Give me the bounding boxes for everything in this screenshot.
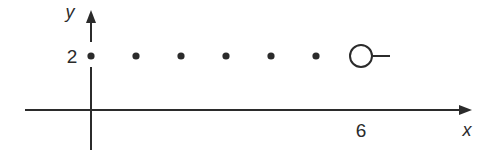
x-tick-labels: 6 [356, 120, 367, 141]
x-axis-label: x [462, 120, 473, 140]
closed-point [87, 52, 94, 59]
closed-point [132, 52, 139, 59]
closed-point [177, 52, 184, 59]
closed-point [312, 52, 319, 59]
closed-point [267, 52, 274, 59]
x-axis-arrow-icon [459, 105, 472, 115]
open-point [350, 45, 372, 67]
y-tick-label: 2 [67, 46, 78, 67]
y-axis-arrow-icon [86, 10, 96, 23]
chart: x y 6 2 [0, 0, 496, 155]
y-axis-label: y [64, 2, 76, 22]
x-tick-label: 6 [356, 120, 367, 141]
data-points [87, 45, 390, 67]
closed-point [222, 52, 229, 59]
axes [25, 10, 472, 150]
y-tick-labels: 2 [67, 46, 78, 67]
